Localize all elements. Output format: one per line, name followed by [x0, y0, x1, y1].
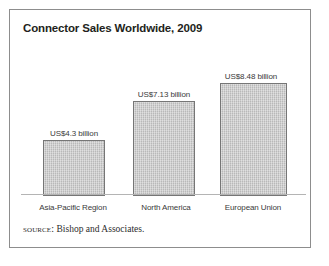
category-label-north-america: North America [116, 203, 216, 212]
chart-title: Connector Sales Worldwide, 2009 [23, 22, 202, 34]
bar-value-label: US$8.48 billion [225, 72, 277, 81]
axis-baseline [21, 194, 306, 195]
source-label: source: [23, 223, 54, 234]
bar-group-asia-pacific-region: US$4.3 billion [43, 46, 105, 196]
bar-value-label: US$4.3 billion [50, 129, 98, 138]
bar-european-union [220, 83, 287, 196]
bar-north-america [133, 101, 195, 196]
bar-asia-pacific-region [43, 140, 105, 196]
source-text: Bishop and Associates. [56, 224, 144, 234]
bar-group-european-union: US$8.48 billion [220, 46, 282, 196]
category-label-asia-pacific-region: Asia-Pacific Region [23, 203, 123, 212]
bar-value-label: US$7.13 billion [138, 90, 190, 99]
source-note: source: Bishop and Associates. [23, 223, 144, 234]
chart-figure: Connector Sales Worldwide, 2009 US$4.3 b… [9, 9, 311, 248]
bar-group-north-america: US$7.13 billion [133, 46, 195, 196]
category-label-european-union: European Union [203, 203, 303, 212]
plot-area: US$4.3 billion US$7.13 billion US$8.48 b… [21, 46, 301, 196]
